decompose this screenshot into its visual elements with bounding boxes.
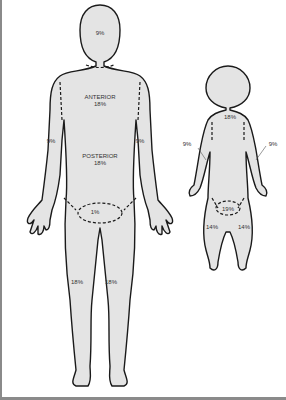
- infant-figure: [189, 66, 267, 270]
- adult-perineum-label: 1%: [91, 209, 100, 216]
- infant-trunk-label: 19%: [222, 206, 234, 213]
- infant-head-label: 18%: [224, 114, 236, 121]
- adult-leg-left-label: 18%: [71, 279, 83, 286]
- infant-arm-left-label: 9%: [183, 141, 192, 148]
- infant-arm-right-label: 9%: [269, 141, 278, 148]
- adult-figure: [27, 5, 172, 386]
- body-diagram: [0, 0, 286, 400]
- adult-posterior-label: 18%: [94, 160, 106, 167]
- infant-leg-right-label: 14%: [238, 224, 250, 231]
- infant-arm-right-pointer: [256, 146, 266, 160]
- adult-leg-right-label: 18%: [105, 279, 117, 286]
- infant-leg-left-label: 14%: [206, 224, 218, 231]
- adult-head-label: 9%: [96, 30, 105, 37]
- adult-arm-right-label: 9%: [136, 138, 145, 145]
- adult-anterior-label: 18%: [94, 101, 106, 108]
- adult-anterior-title: ANTERIOR: [84, 94, 115, 101]
- adult-posterior-title: POSTERIOR: [82, 153, 117, 160]
- adult-arm-left-label: 9%: [47, 138, 56, 145]
